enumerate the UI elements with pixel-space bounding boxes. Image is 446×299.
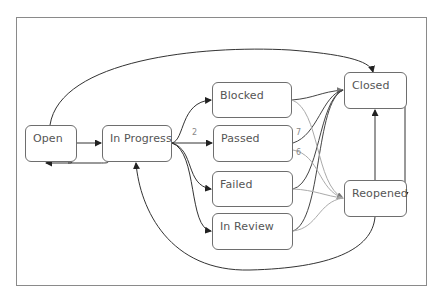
- state-label: Closed: [352, 79, 390, 92]
- state-blocked[interactable]: Blocked: [212, 82, 292, 118]
- edge-label-passed-closed: 7: [296, 128, 301, 137]
- state-closed[interactable]: Closed: [344, 72, 407, 109]
- edge-in-progress-open: [46, 162, 108, 163]
- edge-label-in-progress-passed: 2: [192, 128, 197, 137]
- state-reopened[interactable]: Reopened: [344, 180, 407, 217]
- edge-in-review-reopened: [293, 198, 343, 231]
- state-label: Passed: [221, 132, 260, 145]
- state-in-review[interactable]: In Review: [212, 213, 293, 250]
- edge-failed-reopened: [293, 189, 343, 198]
- state-open[interactable]: Open: [25, 125, 77, 162]
- state-in-progress[interactable]: In Progress: [102, 125, 172, 162]
- state-label: Failed: [220, 178, 253, 191]
- edge-passed-reopened: [293, 150, 343, 198]
- state-label: In Progress: [110, 132, 172, 145]
- state-passed[interactable]: Passed: [213, 125, 293, 162]
- state-label: In Review: [220, 220, 274, 233]
- state-label: Blocked: [220, 89, 264, 102]
- state-failed[interactable]: Failed: [212, 171, 293, 207]
- state-label: Reopened: [352, 187, 408, 200]
- edge-label-passed-reopened: 6: [296, 148, 301, 157]
- edge-blocked-closed: [292, 90, 343, 100]
- edge-in-review-closed: [293, 90, 343, 231]
- state-label: Open: [33, 132, 63, 145]
